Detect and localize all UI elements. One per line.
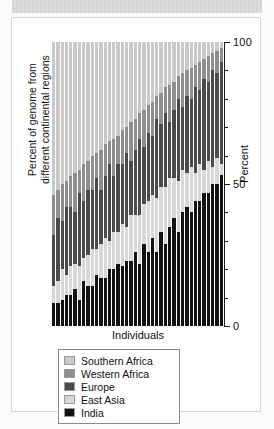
bar-segment [194, 173, 197, 201]
bar-segment [134, 215, 137, 252]
bar-segment [134, 150, 137, 215]
bar-segment [207, 42, 210, 56]
bar-segment [69, 266, 72, 294]
bar-segment [159, 187, 162, 232]
bar-segment [112, 42, 115, 139]
bar-segment [91, 249, 94, 286]
bar-segment [181, 73, 184, 107]
bar-segment [155, 42, 158, 96]
bar-segment [194, 87, 197, 172]
bar-segment [121, 164, 124, 224]
bar-segment [190, 167, 193, 212]
bar-segment [138, 139, 141, 216]
bar-segment [142, 42, 145, 110]
bar-segment [121, 42, 124, 130]
bar-segment [138, 264, 141, 326]
bar-segment [220, 175, 223, 326]
bar-segment [99, 278, 102, 326]
legend-item: India [64, 406, 174, 419]
bar-segment [112, 139, 115, 176]
bar-segment [177, 232, 180, 326]
bar-segment [172, 218, 175, 326]
bar-segment [202, 193, 205, 326]
bar-segment [104, 42, 107, 144]
y-axis-secondary-label-line1: Percent of genome from [26, 55, 39, 184]
bar-segment [198, 62, 201, 90]
bar-segment [147, 42, 150, 104]
bar-segment [134, 42, 137, 119]
bar-segment [52, 195, 55, 235]
bar-segment [91, 156, 94, 190]
bar-segment [125, 42, 128, 127]
bar-segment [99, 150, 102, 190]
bar-segment [73, 42, 76, 173]
bar-segment [125, 227, 128, 261]
bar-segment [82, 201, 85, 258]
bar-segment [211, 53, 214, 70]
legend-swatch [64, 356, 75, 365]
bar-segment [52, 42, 55, 195]
bar-segment [78, 193, 81, 267]
bar-segment [138, 113, 141, 139]
bar-segment [121, 224, 124, 267]
legend-swatch [64, 369, 75, 378]
y-axis-secondary-label-line2: different continental regions [39, 55, 52, 184]
bar-segment [73, 212, 76, 263]
bar-segment [82, 281, 85, 326]
bar-segment [185, 96, 188, 173]
bar-segment [61, 184, 64, 221]
bar-segment [78, 42, 81, 170]
y-tick-major [224, 42, 230, 43]
bar-segment [190, 99, 193, 167]
bar-segment [164, 42, 167, 87]
bar-segment [147, 105, 150, 133]
bar-segment [73, 289, 76, 326]
bar-segment [134, 252, 137, 326]
bar-segment [95, 42, 98, 153]
bar-segment [82, 42, 85, 164]
bar-segment [142, 244, 145, 326]
bar-segment [198, 90, 201, 164]
bar-segment [86, 161, 89, 189]
bar-segment [95, 249, 98, 275]
legend-swatch [64, 382, 75, 391]
bar-segment [104, 238, 107, 278]
legend-label: Europe [81, 381, 115, 393]
bar-segment [190, 42, 193, 68]
bar-segment [220, 62, 223, 164]
legend-swatch [64, 395, 75, 404]
bar-segment [185, 207, 188, 326]
bar-segment [65, 295, 68, 326]
bar-segment [116, 232, 119, 263]
bar-segment [65, 181, 68, 207]
legend-label: East Asia [81, 394, 125, 406]
bar-segment [181, 212, 184, 326]
bar-segment [91, 190, 94, 250]
bar-segment [108, 42, 111, 141]
bar-segment [121, 266, 124, 326]
bar-segment [202, 42, 205, 59]
bar-segment [112, 269, 115, 326]
bar-segment [69, 207, 72, 267]
bar-segment [142, 204, 145, 244]
bar-segment [211, 184, 214, 326]
bar-segment [211, 42, 214, 53]
bar-segment [164, 113, 167, 187]
y-axis-secondary-label: Percent of genome from different contine… [26, 55, 51, 184]
legend-swatch [64, 408, 75, 417]
y-tick-minor [224, 212, 228, 213]
bar-segment [65, 207, 68, 275]
x-axis-title: Individuals [52, 329, 224, 341]
bar-segment [190, 212, 193, 326]
bar-segment [129, 122, 132, 162]
bar-segment [177, 76, 180, 99]
bar-segment [142, 110, 145, 147]
bar-segment [159, 232, 162, 326]
bar-segment [198, 164, 201, 201]
bar-segment [181, 170, 184, 213]
legend-item: Western Africa [64, 367, 174, 380]
bar-segment [151, 42, 154, 102]
bar-segment [69, 295, 72, 326]
bar-segment [151, 102, 154, 136]
bar-segment [190, 68, 193, 99]
